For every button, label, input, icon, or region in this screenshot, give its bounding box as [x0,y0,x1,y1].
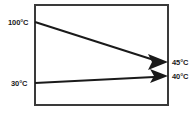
diagram-container: 100°C 30°C 45°C 40°C [0,0,196,115]
cold-inlet-temperature-label: 30°C [11,79,28,88]
hot-inlet-temperature-label: 100°C [8,18,29,27]
temperature-flow-diagram: 100°C 30°C 45°C 40°C [0,0,196,115]
hot-outlet-temperature-label: 45°C [172,58,189,67]
cold-outlet-temperature-label: 40°C [172,72,189,81]
exchanger-body-rectangle [35,5,168,105]
